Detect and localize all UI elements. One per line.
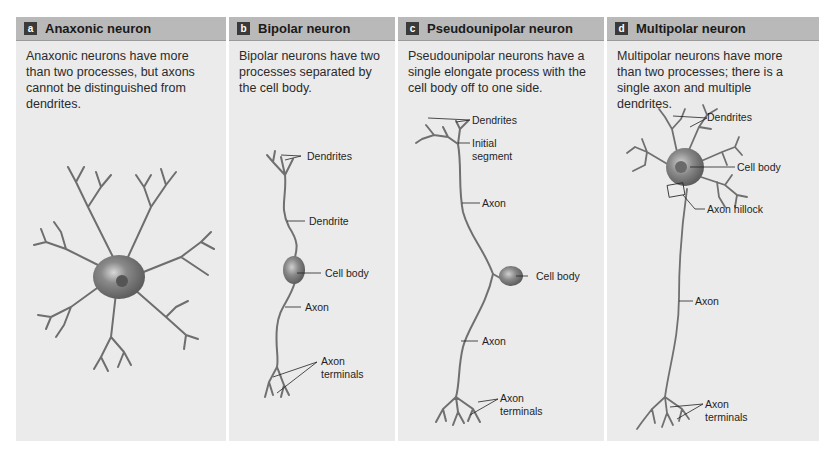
panel-pseudounipolar: c Pseudounipolar neuron Pseudounipolar n… bbox=[398, 17, 604, 441]
label-initial-segment: Initial segment bbox=[472, 137, 512, 163]
label-axon-lower: Axon bbox=[482, 335, 506, 348]
bipolar-neuron-illustration bbox=[229, 17, 395, 441]
label-axon: Axon bbox=[695, 295, 719, 308]
label-cell-body: Cell body bbox=[737, 161, 781, 174]
label-dendrites: Dendrites bbox=[472, 114, 517, 127]
pseudounipolar-neuron-illustration bbox=[398, 17, 604, 441]
panel-multipolar: d Multipolar neuron Multipolar neurons h… bbox=[607, 17, 819, 441]
label-dendrites: Dendrites bbox=[307, 150, 352, 163]
label-cell-body: Cell body bbox=[536, 270, 580, 283]
label-axon-terminals: Axon terminals bbox=[321, 355, 364, 381]
label-axon-hillock: Axon hillock bbox=[707, 203, 763, 216]
label-dendrite: Dendrite bbox=[309, 215, 349, 228]
panel-bipolar: b Bipolar neuron Bipolar neurons have tw… bbox=[229, 17, 395, 441]
label-dendrites: Dendrites bbox=[707, 111, 752, 124]
label-axon-terminals: Axon terminals bbox=[705, 398, 748, 424]
label-axon: Axon bbox=[305, 301, 329, 314]
label-cell-body: Cell body bbox=[325, 267, 369, 280]
label-axon: Axon bbox=[482, 197, 506, 210]
anaxonic-neuron-illustration bbox=[16, 17, 226, 441]
multipolar-neuron-illustration bbox=[607, 17, 819, 441]
panel-anaxonic: a Anaxonic neuron Anaxonic neurons have … bbox=[16, 17, 226, 441]
label-axon-terminals: Axon terminals bbox=[500, 392, 543, 418]
cell-body-icon bbox=[283, 256, 305, 284]
